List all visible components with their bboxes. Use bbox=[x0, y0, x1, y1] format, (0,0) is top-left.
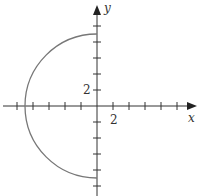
y-tick-label: 2 bbox=[83, 83, 91, 97]
coordinate-diagram: 2 2 x y bbox=[0, 0, 199, 196]
y-axis-label: y bbox=[103, 1, 111, 15]
x-tick-label: 2 bbox=[110, 113, 118, 127]
x-axis-label: x bbox=[188, 111, 195, 125]
plot-canvas: 2 2 x y bbox=[0, 0, 199, 196]
y-axis-arrow-icon bbox=[93, 5, 101, 15]
x-axis-arrow-icon bbox=[187, 102, 197, 110]
